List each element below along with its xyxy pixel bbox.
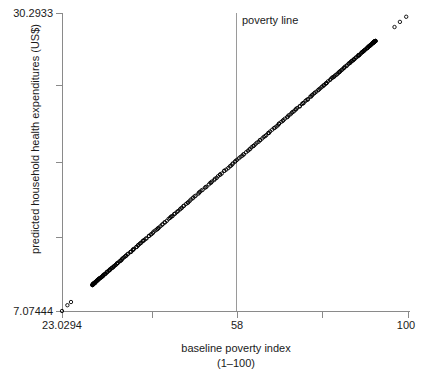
- x-axis-tick-3: [322, 312, 323, 318]
- chart-screenshot: 30.2933 7.07444 23.0294 58 100 predicted…: [0, 0, 423, 376]
- x-axis-title: baseline poverty index (1–100): [62, 341, 410, 371]
- y-axis-title: predicted household health expenditures …: [29, 0, 41, 284]
- y-axis-tick-0: [56, 13, 62, 14]
- x-axis-tick-0: [62, 312, 63, 318]
- x-axis-line: [62, 311, 410, 312]
- y-axis-tick-3: [56, 237, 62, 238]
- x-axis-tick-4: [408, 312, 409, 318]
- x-axis-tick-label-left: 23.0294: [42, 320, 82, 331]
- poverty-line-label: poverty line: [242, 14, 298, 26]
- x-axis-title-main: baseline poverty index: [181, 342, 290, 354]
- x-axis-tick-1: [152, 312, 153, 318]
- y-axis-tick-label-bottom: 7.07444: [13, 306, 53, 317]
- x-axis-tick-2: [237, 312, 238, 318]
- x-axis-tick-label-mid: 58: [231, 320, 243, 331]
- x-axis-title-sub: (1–100): [62, 356, 410, 371]
- y-axis-tick-label-top-wrap: 30.2933: [0, 8, 53, 19]
- x-axis-tick-label-right: 100: [397, 320, 415, 331]
- poverty-line-marker: [236, 13, 237, 311]
- y-axis-tick-label-bottom-wrap: 7.07444: [0, 306, 53, 317]
- y-axis-tick-1: [56, 85, 62, 86]
- y-axis-line: [62, 13, 63, 311]
- y-axis-tick-2: [56, 162, 62, 163]
